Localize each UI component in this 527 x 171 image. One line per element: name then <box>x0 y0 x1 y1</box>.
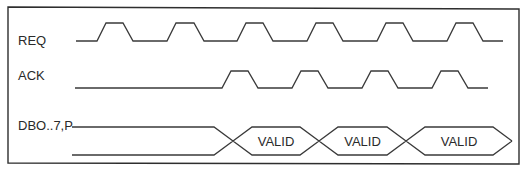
signal-label-ack: ACK <box>18 68 45 83</box>
valid-window-label-1: VALID <box>258 134 295 149</box>
valid-window-label-3: VALID <box>441 134 478 149</box>
ack-waveform <box>75 71 488 88</box>
signal-label-data-bus: DBO..7,P <box>18 118 73 133</box>
valid-window-label-2: VALID <box>344 134 381 149</box>
signal-label-req: REQ <box>18 33 46 48</box>
req-waveform <box>76 23 503 41</box>
timing-diagram: REQ ACK DBO..7,P VALID VALID VALID <box>0 0 527 171</box>
